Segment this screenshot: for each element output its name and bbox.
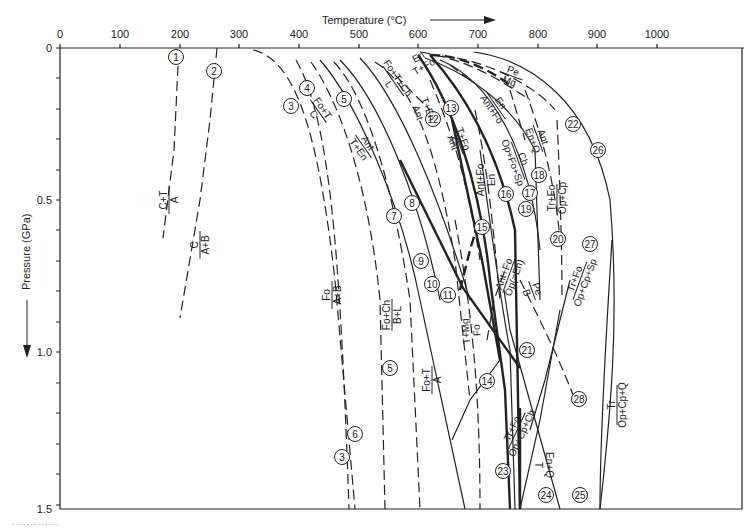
node-13: 13 [444,101,459,116]
svg-text:Fo: Fo [470,324,482,337]
reaction-labels: C+TA CA+B Fo+TC AntT+En FoA+B Fo+ChB+L F… [158,46,628,478]
svg-text:B: B [521,288,534,298]
svg-text:Ant+Fo: Ant+Fo [475,163,486,196]
node-26: 26 [591,143,606,158]
svg-text:21: 21 [521,345,533,356]
svg-text:1.5: 1.5 [37,503,52,515]
svg-text:En+Q: En+Q [544,452,555,478]
svg-text:100: 100 [111,28,129,40]
svg-text:5: 5 [387,363,393,374]
phase-diagram: 0 100 200 300 400 500 600 700 800 900 10… [0,0,744,530]
node-10: 10 [425,277,440,292]
node-8: 8 [405,196,420,211]
node-17: 17 [523,186,538,201]
svg-text:17: 17 [524,188,536,199]
x-tick-labels: 0 100 200 300 400 500 600 700 800 900 10… [57,28,669,40]
svg-text:3: 3 [339,452,345,463]
svg-text:C: C [307,108,320,120]
svg-text:Fo: Fo [321,289,332,301]
svg-text:0: 0 [57,28,63,40]
svg-text:En: En [486,174,497,186]
node-4: 4 [300,81,315,96]
svg-text:500: 500 [350,28,368,40]
svg-text:16: 16 [500,189,512,200]
svg-text:Op+Cp+Q: Op+Cp+Q [617,382,628,428]
svg-text:0: 0 [46,42,52,54]
svg-text:200: 200 [171,28,189,40]
svg-text:Fo+Ch: Fo+Ch [381,300,392,330]
footer-dots: ············· [12,520,60,529]
svg-text:4: 4 [304,83,310,94]
node-27: 27 [583,237,598,252]
svg-text:8: 8 [409,198,415,209]
svg-text:1000: 1000 [645,28,669,40]
svg-text:Op+Cp: Op+Cp [557,182,568,214]
arrow-right-icon [484,16,496,24]
svg-text:9: 9 [418,256,424,267]
svg-text:15: 15 [476,222,488,233]
svg-text:A: A [432,376,443,383]
arrow-down-icon [23,345,31,358]
svg-text:13: 13 [445,103,457,114]
node-20: 20 [551,232,566,247]
svg-text:600: 600 [409,28,427,40]
node-11: 11 [441,288,456,303]
node-16: 16 [499,187,514,202]
plot-frame [60,48,744,509]
svg-text:1.0: 1.0 [37,346,52,358]
reaction-curves [163,48,614,509]
node-23: 23 [496,464,511,479]
svg-text:24: 24 [540,490,552,501]
svg-text:800: 800 [529,28,547,40]
svg-text:7: 7 [391,211,397,222]
node-19: 19 [519,202,534,217]
node-15: 15 [475,220,490,235]
svg-text:2: 2 [211,66,217,77]
svg-text:20: 20 [552,234,564,245]
node-1: 1 [169,50,184,65]
node-2: 2 [207,64,222,79]
invariant-points: 1 2 3 4 5 5 6 3 7 8 9 10 11 12 13 14 15 … [169,50,606,503]
node-18: 18 [532,168,547,183]
svg-text:C: C [189,241,200,248]
svg-text:Temperature (°C): Temperature (°C) [322,14,406,26]
node-5a: 5 [337,92,352,107]
node-6: 6 [348,427,363,442]
node-28: 28 [572,392,587,407]
svg-text:28: 28 [573,394,585,405]
node-14: 14 [480,374,495,389]
svg-text:26: 26 [592,145,604,156]
svg-text:Fo+T: Fo+T [421,368,432,392]
node-3b: 3 [335,450,350,465]
svg-text:L: L [383,79,395,90]
node-7: 7 [387,209,402,224]
y-tick-labels: 0 0.5 1.0 1.5 [37,42,52,515]
svg-text:22: 22 [567,119,579,130]
node-25: 25 [573,488,588,503]
svg-text:Tr+Fo: Tr+Fo [546,184,557,211]
svg-text:C+T: C+T [158,190,169,209]
svg-text:5: 5 [341,94,347,105]
svg-text:A: A [169,196,180,203]
svg-text:900: 900 [588,28,606,40]
y-axis-title: Pressure (GPa) [20,214,32,358]
svg-text:1: 1 [173,52,179,63]
node-9: 9 [414,254,429,269]
svg-text:0.5: 0.5 [37,194,52,206]
svg-text:B+L: B+L [392,306,403,325]
svg-text:14: 14 [481,376,493,387]
svg-text:23: 23 [497,466,509,477]
node-22: 22 [566,117,581,132]
svg-text:3: 3 [288,101,294,112]
svg-text:Tr: Tr [606,400,617,410]
node-5b: 5 [383,361,398,376]
svg-text:27: 27 [584,239,596,250]
svg-text:11: 11 [443,290,454,301]
svg-text:700: 700 [469,28,487,40]
svg-text:6: 6 [352,429,358,440]
node-21: 21 [520,343,535,358]
svg-text:Pressure (GPa): Pressure (GPa) [20,214,32,290]
svg-text:18: 18 [533,170,545,181]
x-axis-title: Temperature (°C) [322,14,496,26]
svg-text:T: T [533,462,544,468]
